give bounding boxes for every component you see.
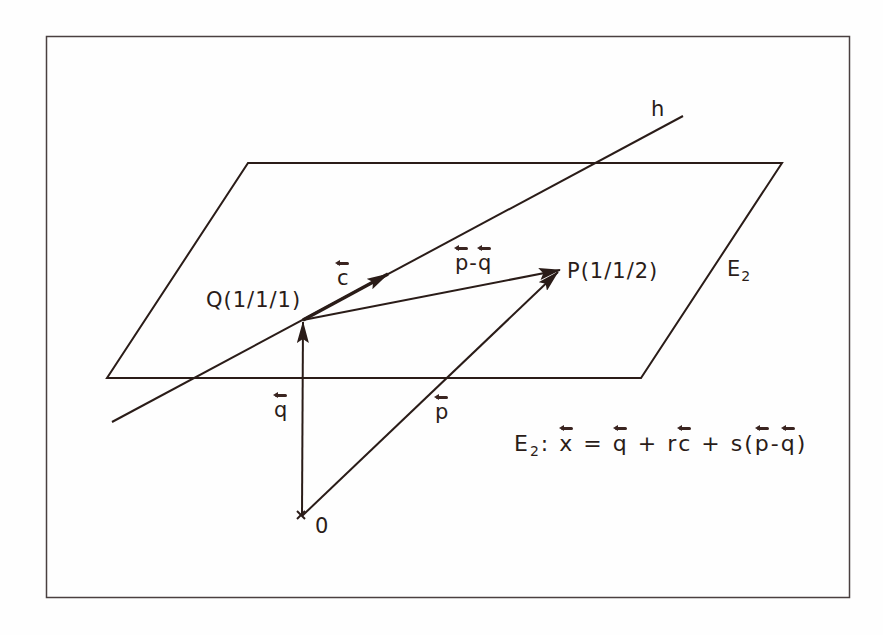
label-point-p: P(1/1/2) bbox=[567, 261, 658, 282]
eq-minus: - bbox=[771, 431, 781, 456]
vector-q-arrow bbox=[302, 322, 303, 516]
label-vector-p: p bbox=[435, 402, 449, 423]
eq-plane-e: E bbox=[514, 431, 530, 456]
label-vector-c: c bbox=[337, 268, 350, 289]
eq-equals: = bbox=[583, 431, 603, 456]
vector-c-symbol: c bbox=[337, 268, 350, 289]
eq-vector-q: q bbox=[613, 433, 629, 455]
vector-q-symbol: q bbox=[274, 400, 288, 421]
vector-p-symbol: p bbox=[435, 402, 449, 423]
eq-rparen: ) bbox=[797, 431, 808, 456]
label-point-q: Q(1/1/1) bbox=[206, 290, 301, 311]
label-vector-p-minus-q: p-q bbox=[455, 253, 492, 274]
label-origin: 0 bbox=[315, 516, 329, 537]
eq-param-r: r bbox=[667, 431, 678, 456]
eq-colon: : bbox=[541, 431, 550, 456]
eq-plus-2: + bbox=[701, 431, 721, 456]
diagram-frame bbox=[47, 37, 850, 598]
eq-vector-p: p bbox=[755, 433, 771, 455]
eq-plus-1: + bbox=[638, 431, 658, 456]
plane-equation: E2: x = q + rc + s(p-q) bbox=[514, 433, 807, 458]
label-plane-e2: E2 bbox=[727, 259, 751, 283]
eq-vector-q2: q bbox=[781, 433, 797, 455]
eq-vector-c: c bbox=[678, 433, 692, 455]
label-line-h: h bbox=[651, 99, 665, 120]
label-plane-subscript: 2 bbox=[741, 268, 751, 284]
vector-p-arrow bbox=[302, 272, 558, 516]
eq-param-s: s bbox=[731, 431, 744, 456]
diagram-canvas bbox=[0, 0, 883, 635]
label-vector-q: q bbox=[274, 400, 288, 421]
label-plane-e: E bbox=[727, 257, 741, 281]
vector-p-symbol: p bbox=[455, 253, 469, 274]
minus-sign: - bbox=[469, 251, 478, 275]
eq-vector-x: x bbox=[559, 433, 574, 455]
plane-e2 bbox=[107, 163, 782, 378]
vector-q-symbol: q bbox=[478, 253, 492, 274]
eq-lparen: ( bbox=[744, 431, 755, 456]
eq-plane-subscript: 2 bbox=[530, 443, 541, 459]
